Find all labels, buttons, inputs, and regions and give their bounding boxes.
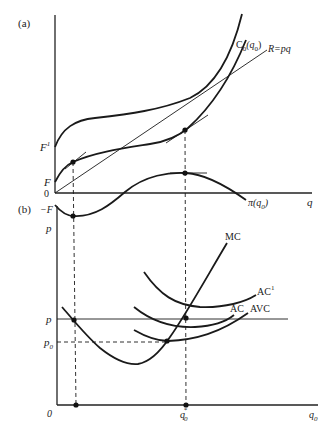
panel-a: (a) F1 F 0 q C0(q0) R=pq π(q0) <box>18 14 313 219</box>
label-p: p <box>45 313 52 325</box>
label-origin-b: 0 <box>47 408 52 419</box>
panel-b-label: (b) <box>18 203 31 216</box>
point-mc-avc-min <box>164 338 169 343</box>
ac-label: AC <box>230 303 244 314</box>
label-q0: q0 <box>309 409 318 423</box>
label-q: q <box>307 196 313 208</box>
profit-curve-label: π(q0) <box>248 197 269 211</box>
guide-dashed-low <box>73 162 76 405</box>
label-F: F <box>43 176 51 188</box>
tangent-low <box>65 152 86 169</box>
avc-label: AVC <box>250 303 270 314</box>
label-neg-F: −F <box>40 204 54 215</box>
point-profit-min <box>70 213 75 218</box>
point-p-mc-low <box>71 317 76 322</box>
ac1-label: AC1 <box>257 284 275 297</box>
mc-label: MC <box>225 231 241 242</box>
label-p0: p0 <box>43 336 54 351</box>
label-origin-a: 0 <box>44 188 49 199</box>
cost-curve-high-fixed <box>55 14 242 147</box>
cost-curve-c0 <box>55 40 246 182</box>
profit-curve <box>55 173 246 216</box>
revenue-line <box>55 50 267 193</box>
label-F1: F1 <box>39 140 50 153</box>
cost-curve-c0-label: C0(q0) <box>236 39 261 53</box>
cost-profit-diagram: (a) F1 F 0 q C0(q0) R=pq π(q0) (b) <box>0 0 331 433</box>
panel-b: (b) −F p p p0 MC AC1 AC AVC 0 q0* q0 <box>18 203 318 423</box>
panel-a-label: (a) <box>18 17 31 30</box>
revenue-line-label: R=pq <box>267 43 291 54</box>
mc-curve <box>62 243 227 364</box>
label-p-axis: p <box>45 222 52 234</box>
label-qstar: q0* <box>180 406 188 423</box>
